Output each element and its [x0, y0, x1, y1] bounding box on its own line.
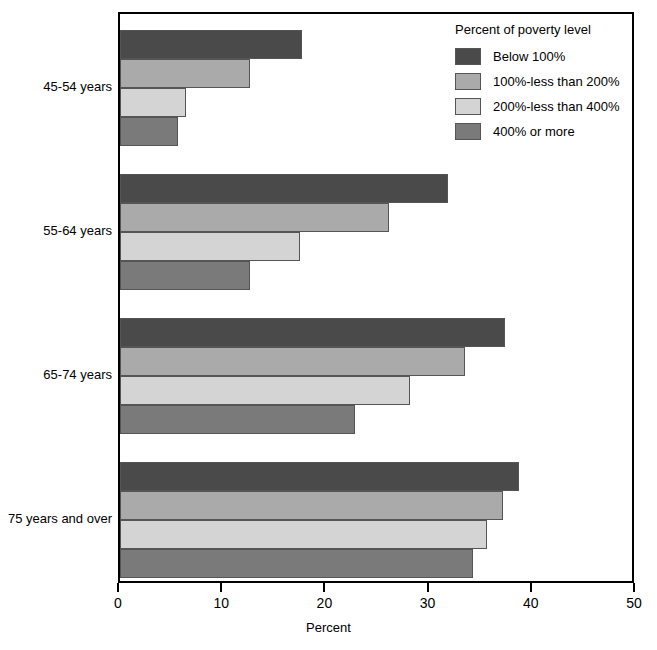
legend-swatch [455, 48, 481, 65]
bar [120, 462, 519, 491]
bar [120, 520, 487, 549]
category-label: 65-74 years [0, 367, 112, 382]
legend-item-label: 100%-less than 200% [493, 74, 619, 89]
legend-item: 100%-less than 200% [455, 69, 635, 94]
bar [120, 59, 250, 88]
legend-swatch [455, 73, 481, 90]
legend-swatch [455, 98, 481, 115]
legend-item-label: 400% or more [493, 124, 575, 139]
bar-chart: 45-54 years55-64 years65-74 years75 year… [0, 0, 657, 650]
x-axis-tick [117, 583, 119, 592]
x-axis-tick-label: 30 [420, 595, 436, 611]
bar [120, 203, 389, 232]
x-axis-tick [530, 583, 532, 592]
legend-item: 200%-less than 400% [455, 94, 635, 119]
legend-title: Percent of poverty level [455, 22, 635, 37]
legend-item: Below 100% [455, 44, 635, 69]
x-axis-ticks: 01020304050 [0, 583, 657, 584]
x-axis-tick [633, 583, 635, 592]
bar [120, 318, 505, 347]
bar [120, 491, 503, 520]
bar [120, 405, 355, 434]
x-axis-tick-label: 10 [213, 595, 229, 611]
legend-swatch [455, 123, 481, 140]
category-label: 75 years and over [0, 511, 112, 526]
bar [120, 232, 300, 261]
bar [120, 549, 473, 578]
legend-item-label: 200%-less than 400% [493, 99, 619, 114]
legend-item: 400% or more [455, 119, 635, 144]
bar [120, 376, 410, 405]
category-label: 55-64 years [0, 223, 112, 238]
x-axis-tick-label: 0 [114, 595, 122, 611]
x-axis-tick [323, 583, 325, 592]
legend: Percent of poverty level Below 100%100%-… [455, 22, 635, 144]
bar [120, 261, 250, 290]
x-axis-tick-label: 40 [523, 595, 539, 611]
bar [120, 347, 465, 376]
bar [120, 88, 186, 117]
bar [120, 174, 448, 203]
x-axis-title: Percent [0, 620, 657, 635]
x-axis-tick-label: 20 [317, 595, 333, 611]
x-axis-tick [220, 583, 222, 592]
x-axis-tick-label: 50 [626, 595, 642, 611]
bar [120, 30, 302, 59]
legend-item-label: Below 100% [493, 49, 565, 64]
x-axis-tick [427, 583, 429, 592]
category-label: 45-54 years [0, 79, 112, 94]
bar [120, 117, 178, 146]
